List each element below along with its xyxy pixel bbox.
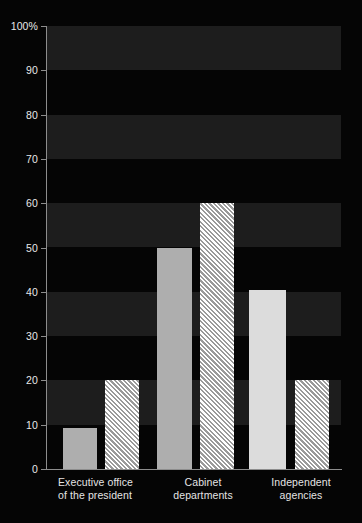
y-tick-mark bbox=[41, 469, 47, 470]
y-tick-mark bbox=[41, 26, 47, 27]
x-axis-line bbox=[46, 469, 342, 470]
bar bbox=[249, 290, 286, 469]
bar bbox=[105, 380, 139, 469]
bars-layer bbox=[47, 26, 341, 469]
bar bbox=[200, 203, 234, 469]
category-label-independent-agencies: Independent agencies bbox=[252, 476, 350, 502]
y-tick-label: 0 bbox=[0, 464, 38, 475]
y-tick-mark bbox=[41, 380, 47, 381]
bar bbox=[157, 248, 192, 470]
y-tick-mark bbox=[41, 115, 47, 116]
y-tick-label: 20 bbox=[0, 375, 38, 386]
y-tick-label: 60 bbox=[0, 198, 38, 209]
y-tick-mark bbox=[41, 292, 47, 293]
bar bbox=[63, 428, 97, 469]
bar-chart: 0102030405060708090100% Executive office… bbox=[0, 0, 362, 523]
bar bbox=[295, 380, 329, 469]
y-tick-label: 80 bbox=[0, 110, 38, 121]
y-tick-mark bbox=[41, 336, 47, 337]
y-axis-ticks: 0102030405060708090100% bbox=[0, 0, 38, 523]
y-tick-label: 100% bbox=[0, 21, 38, 32]
y-tick-mark bbox=[41, 70, 47, 71]
y-tick-label: 40 bbox=[0, 287, 38, 298]
y-tick-mark bbox=[41, 425, 47, 426]
y-tick-label: 90 bbox=[0, 65, 38, 76]
y-tick-label: 10 bbox=[0, 420, 38, 431]
y-tick-mark bbox=[41, 248, 47, 249]
y-tick-label: 30 bbox=[0, 331, 38, 342]
y-tick-mark bbox=[41, 203, 47, 204]
y-tick-label: 70 bbox=[0, 154, 38, 165]
y-tick-mark bbox=[41, 159, 47, 160]
category-label-cabinet-departments: Cabinet departments bbox=[154, 476, 252, 502]
category-label-executive-office: Executive office of the president bbox=[58, 476, 133, 502]
y-tick-label: 50 bbox=[0, 243, 38, 254]
